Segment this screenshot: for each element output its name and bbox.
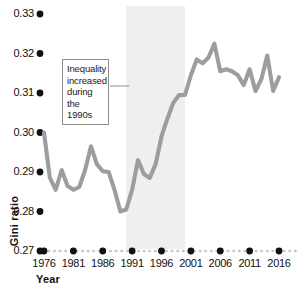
x-tick-dot-2011 — [246, 248, 253, 255]
y-tick-label-0.33: 0.33 — [0, 7, 34, 19]
x-tick-label-2006: 2006 — [204, 257, 236, 269]
annotation-line-2: increased — [67, 75, 105, 87]
annotation-line-1: Inequality — [67, 63, 105, 75]
x-tick-label-1981: 1981 — [57, 257, 89, 269]
x-tick-label-2016: 2016 — [263, 257, 295, 269]
y-tick-label-0.31: 0.31 — [0, 86, 34, 98]
annotation-line-4: 1990s — [67, 109, 105, 121]
x-tick-label-2001: 2001 — [175, 257, 207, 269]
y-tick-dot-0.32 — [37, 50, 44, 57]
x-axis-title: Year — [36, 273, 60, 285]
x-tick-dot-1996 — [158, 248, 165, 255]
annotation-line-3: during the — [67, 86, 105, 109]
x-tick-dot-1986 — [99, 248, 106, 255]
chart-plot-area — [0, 0, 305, 298]
x-tick-dot-2016 — [276, 248, 283, 255]
y-tick-dot-0.29 — [37, 169, 44, 176]
shaded-decade-band — [126, 6, 185, 249]
y-tick-dot-0.28 — [37, 208, 44, 215]
x-tick-label-2011: 2011 — [234, 257, 266, 269]
y-tick-dot-0.27 — [37, 248, 44, 255]
y-tick-dot-0.33 — [37, 11, 44, 18]
y-tick-dot-0.31 — [37, 90, 44, 97]
x-tick-label-1986: 1986 — [87, 257, 119, 269]
inequality-annotation-box: Inequality increased during the 1990s — [62, 59, 109, 125]
y-tick-label-0.29: 0.29 — [0, 165, 34, 177]
x-tick-dot-1991 — [129, 248, 136, 255]
x-tick-dot-2001 — [187, 248, 194, 255]
x-tick-dot-2006 — [217, 248, 224, 255]
y-axis-title: Gini ratio — [8, 191, 20, 251]
x-tick-dot-1981 — [70, 248, 77, 255]
y-tick-label-0.32: 0.32 — [0, 47, 34, 59]
gini-ratio-line-chart: 0.330.320.310.300.290.280.27 19761981198… — [0, 0, 305, 298]
y-tick-label-0.30: 0.30 — [0, 126, 34, 138]
x-tick-label-1996: 1996 — [146, 257, 178, 269]
x-tick-label-1976: 1976 — [28, 257, 60, 269]
x-tick-label-1991: 1991 — [116, 257, 148, 269]
